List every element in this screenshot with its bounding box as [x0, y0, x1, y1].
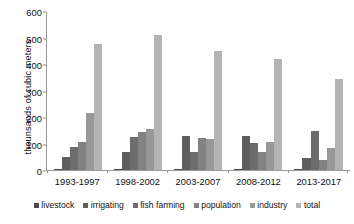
plot-area: 0100200300400500600 [46, 12, 348, 171]
bar-total [214, 51, 222, 170]
bar-total [94, 44, 102, 170]
bar-population [258, 152, 266, 170]
bar-slot-row [114, 12, 162, 170]
y-tick-mark [43, 38, 46, 39]
bar-slot-row [54, 12, 102, 170]
bar-population [78, 142, 86, 170]
bar-fish-farming [130, 137, 138, 170]
y-tick-mark [43, 91, 46, 92]
bar-group [167, 12, 227, 170]
bar-group [228, 12, 288, 170]
bar-industry [86, 113, 94, 170]
bar-population [198, 138, 206, 170]
legend-item-livestock[interactable]: livestock [34, 200, 74, 210]
x-axis-tick-label: 2013-2017 [289, 176, 349, 187]
y-tick-label: 200 [26, 113, 42, 124]
legend-label: industry [257, 200, 287, 210]
y-tick-mark [43, 118, 46, 119]
bar-industry [266, 142, 274, 170]
legend-swatch-icon [296, 203, 301, 208]
bar-industry [327, 148, 335, 170]
legend-swatch-icon [250, 203, 255, 208]
bar-group [107, 12, 167, 170]
chart-legend: livestockirrigatingfish farmingpopulatio… [0, 200, 354, 210]
legend-label: livestock [41, 200, 74, 210]
bar-slot-row [294, 12, 342, 170]
bar-slot-row [174, 12, 222, 170]
y-tick-mark [43, 65, 46, 66]
bar-group [288, 12, 348, 170]
legend-item-total[interactable]: total [296, 200, 320, 210]
legend-label: population [201, 200, 241, 210]
y-tick-label: 400 [26, 60, 42, 71]
legend-item-population[interactable]: population [194, 200, 241, 210]
y-tick-label: 500 [26, 33, 42, 44]
x-axis-line [46, 170, 350, 171]
y-tick-mark [43, 144, 46, 145]
legend-swatch-icon [194, 203, 199, 208]
bar-slot-row [234, 12, 282, 170]
bar-total [274, 59, 282, 170]
bar-chart: thounsands of cubic meters 0100200300400… [0, 0, 354, 224]
legend-item-fish-farming[interactable]: fish farming [133, 200, 185, 210]
bar-irrigating [122, 152, 130, 170]
bar-fish-farming [70, 147, 78, 170]
legend-item-industry[interactable]: industry [250, 200, 288, 210]
bar-population [319, 160, 327, 170]
bar-industry [206, 139, 214, 170]
y-tick-label: 100 [26, 139, 42, 150]
bar-population [138, 132, 146, 170]
bar-fish-farming [190, 152, 198, 170]
x-axis-labels: 1993-19971998-20022003-20072008-20122013… [47, 176, 349, 187]
x-axis-tick-label: 2003-2007 [168, 176, 228, 187]
bar-group [47, 12, 107, 170]
bar-total [154, 35, 162, 170]
bar-irrigating [242, 136, 250, 170]
bar-irrigating [302, 158, 310, 170]
y-tick-mark [43, 12, 46, 13]
bar-total [335, 79, 343, 170]
bar-fish-farming [311, 131, 319, 171]
legend-label: total [304, 200, 320, 210]
y-tick-label: 0 [37, 166, 42, 177]
bar-industry [146, 129, 154, 170]
bar-irrigating [62, 157, 70, 170]
legend-swatch-icon [34, 203, 39, 208]
y-tick-label: 300 [26, 86, 42, 97]
bar-groups [47, 12, 348, 170]
legend-item-irrigating[interactable]: irrigating [83, 200, 123, 210]
bar-fish-farming [250, 143, 258, 170]
x-axis-tick-label: 2008-2012 [228, 176, 288, 187]
x-axis-tick-label: 1993-1997 [47, 176, 107, 187]
y-tick-label: 600 [26, 7, 42, 18]
x-axis-tick-label: 1998-2002 [107, 176, 167, 187]
legend-swatch-icon [83, 203, 88, 208]
legend-label: irrigating [91, 200, 124, 210]
bar-irrigating [182, 136, 190, 170]
legend-label: fish farming [140, 200, 184, 210]
legend-swatch-icon [133, 203, 138, 208]
